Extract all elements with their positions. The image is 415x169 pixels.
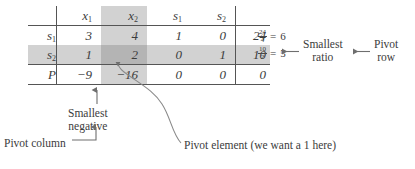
row-label-p: P — [28, 65, 57, 85]
table-row-p: P −9 −16 0 0 0 — [28, 65, 270, 85]
label-smallest-ratio: Smallest ratio — [303, 38, 343, 63]
cell-p-x1: −9 — [57, 65, 102, 85]
ratio-value-1: 6 — [280, 28, 286, 45]
equals-sign: = — [270, 45, 276, 62]
header-cell-rhs — [236, 6, 271, 26]
header-cell-x2: x2 — [101, 6, 147, 26]
label-smallest-negative-line1: Smallest — [68, 107, 108, 120]
cell-s1-s1: 1 — [147, 26, 191, 46]
fraction-denominator: 4 — [258, 36, 267, 45]
cell-s1-x2: 4 — [101, 26, 147, 46]
row-label-s2: s2 — [28, 45, 57, 65]
header-cell-s1: s1 — [147, 6, 191, 26]
diagram-canvas: x1 x2 s1 s2 s1 3 4 1 — [0, 0, 415, 169]
simplex-tableau: x1 x2 s1 s2 s1 3 4 1 — [28, 6, 270, 85]
fraction-numerator: 24 — [258, 29, 267, 37]
cell-s2-s1: 0 — [147, 45, 191, 65]
header-corner-cell — [28, 6, 57, 26]
cell-p-s2: 0 — [191, 65, 236, 85]
ratio-item-2: 10 2 = 5 — [258, 45, 286, 62]
row-label-s1: s1 — [28, 26, 57, 46]
cell-s2-x1: 1 — [57, 45, 102, 65]
fraction-numerator: 10 — [258, 46, 267, 54]
cell-p-s1: 0 — [147, 65, 191, 85]
ratio-value-2: 5 — [280, 45, 286, 62]
equals-sign: = — [270, 28, 276, 45]
fraction-24-over-4: 24 4 — [258, 29, 267, 45]
fraction-10-over-2: 10 2 — [258, 46, 267, 62]
header-label-x2-sub: 2 — [134, 15, 138, 24]
table-header-row: x1 x2 s1 s2 — [28, 6, 270, 26]
row-label-s2-sub: 2 — [52, 54, 56, 63]
row-label-p-base: P — [48, 67, 56, 82]
header-label-s2-sub: 2 — [222, 15, 226, 24]
header-cell-x1: x1 — [57, 6, 102, 26]
header-label-s1-sub: 1 — [178, 15, 182, 24]
table-row-s1: s1 3 4 1 0 24 — [28, 26, 270, 46]
header-label-x1-sub: 1 — [88, 15, 92, 24]
fraction-denominator: 2 — [258, 53, 267, 62]
label-smallest-ratio-line1: Smallest — [303, 38, 343, 51]
row-label-s1-sub: 1 — [52, 35, 56, 44]
label-smallest-negative: Smallest negative — [68, 107, 108, 132]
label-pivot-row-line2: row — [374, 51, 398, 64]
header-cell-s2: s2 — [191, 6, 236, 26]
label-pivot-row: Pivot row — [374, 38, 398, 63]
table-row-s2: s2 1 2 0 1 10 — [28, 45, 270, 65]
cell-pivot-element: 2 — [101, 45, 147, 65]
ratio-computations: 24 4 = 6 10 2 = 5 — [258, 28, 286, 62]
label-pivot-row-line1: Pivot — [374, 38, 398, 51]
cell-s2-s2: 1 — [191, 45, 236, 65]
ratio-item-1: 24 4 = 6 — [258, 28, 286, 45]
cell-s1-s2: 0 — [191, 26, 236, 46]
label-pivot-column: Pivot column — [4, 137, 66, 150]
cell-s1-x1: 3 — [57, 26, 102, 46]
cell-p-x2: −16 — [101, 65, 147, 85]
label-smallest-negative-line2: negative — [68, 120, 108, 133]
label-smallest-ratio-line2: ratio — [303, 51, 343, 64]
label-pivot-element: Pivot element (we want a 1 here) — [184, 139, 336, 152]
cell-p-rhs: 0 — [236, 65, 271, 85]
